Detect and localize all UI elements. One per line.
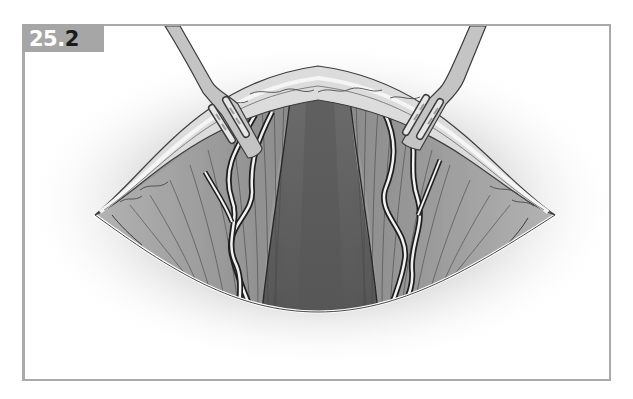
surgical-illustration <box>0 0 633 399</box>
figure-label-suffix: 2 <box>65 27 79 51</box>
figure-label-prefix: 25. <box>29 27 65 51</box>
figure-label: 25.2 <box>22 24 104 52</box>
